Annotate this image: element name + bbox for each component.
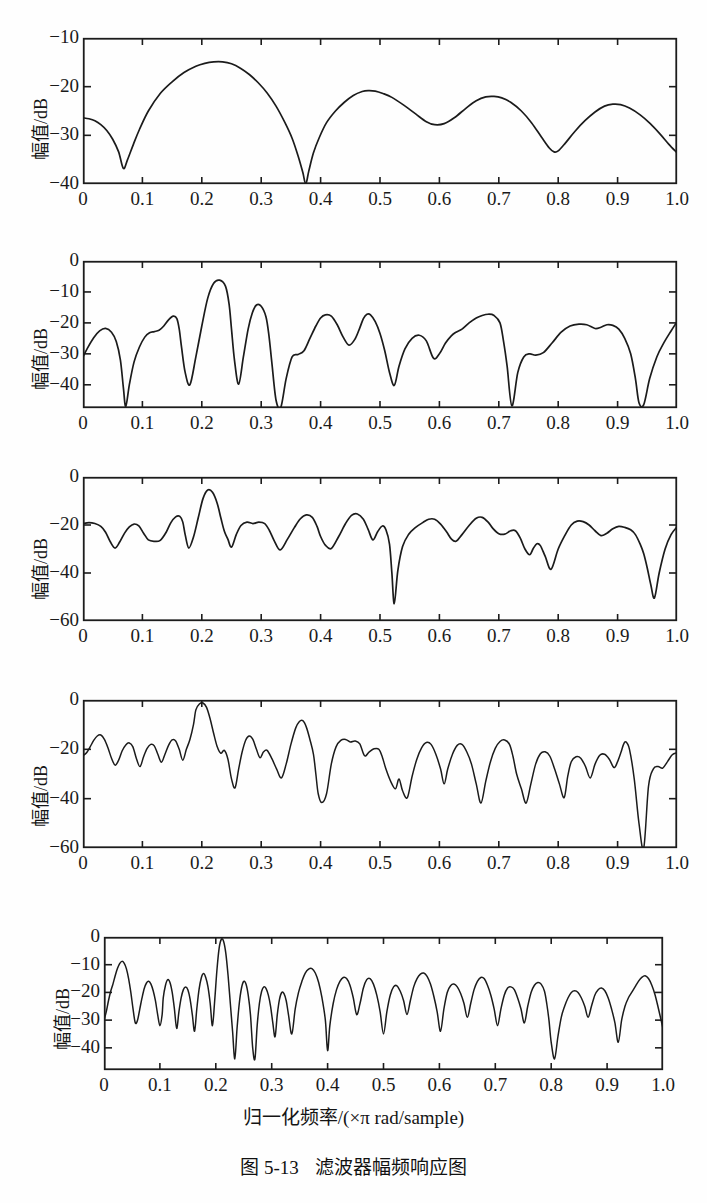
x-tick-label: 0.9 [598,412,638,434]
x-tick-label: 0.7 [479,852,519,874]
x-tick-label: 0.5 [364,1074,404,1096]
y-axis-label-1: 幅值/dB [26,98,52,160]
y-tick-label: −40 [49,787,79,809]
x-axis-label: 归一化频率/(×π rad/sample) [0,1102,707,1129]
x-tick-label: 0.3 [252,1074,292,1096]
y-tick-label: 0 [91,925,101,947]
x-tick-label: 0.5 [360,852,400,874]
x-tick-label: 0.7 [475,1074,515,1096]
x-tick-label: 0.8 [538,852,578,874]
plot-area-5 [104,937,663,1070]
y-tick-label: −30 [49,342,79,364]
x-tick-label: 0.2 [182,852,222,874]
x-tick-label: 0.9 [598,188,638,210]
x-tick-label: 0.6 [419,852,459,874]
x-tick-label: 1.0 [657,412,697,434]
x-tick-label: 0.3 [241,412,281,434]
y-tick-label: −20 [49,311,79,333]
y-tick-label: −10 [70,953,100,975]
y-tick-label: −10 [49,26,79,48]
x-tick-label: 0.6 [419,412,459,434]
x-tick-label: 0.8 [531,1074,571,1096]
subplot-1 [83,38,677,184]
y-tick-label: −20 [49,513,79,535]
y-tick-label: −40 [49,561,79,583]
plot-area-2 [83,261,677,408]
x-tick-label: 0.9 [587,1074,627,1096]
x-tick-label: 0.2 [196,1074,236,1096]
x-tick-label: 0.8 [538,625,578,647]
x-tick-label: 0.3 [241,625,281,647]
y-tick-label: −60 [49,609,79,631]
x-tick-label: 0.7 [479,412,519,434]
x-tick-label: 0.8 [538,188,578,210]
x-tick-label: 0.4 [301,852,341,874]
x-tick-label: 0.1 [122,852,162,874]
x-tick-label: 0.5 [360,625,400,647]
y-tick-label: 0 [70,465,80,487]
subplot-5 [104,937,663,1070]
x-tick-label: 0.4 [308,1074,348,1096]
y-tick-label: −40 [70,1036,100,1058]
y-tick-label: −40 [49,373,79,395]
x-tick-label: 0.9 [598,852,638,874]
plot-area-1 [83,38,677,184]
x-tick-label: 0.3 [241,188,281,210]
y-tick-label: −10 [49,280,79,302]
y-tick-label: −20 [49,737,79,759]
subplot-3 [83,477,677,621]
subplot-4 [83,700,677,848]
x-tick-label: 0.7 [479,188,519,210]
x-tick-label: 0.7 [479,625,519,647]
x-tick-label: 1.0 [657,625,697,647]
y-axis-label-4: 幅值/dB [26,765,52,827]
figure-container: 幅值/dB 00.10.20.30.40.50.60.70.80.91.0 −1… [0,0,707,1203]
x-tick-label: 0.1 [122,625,162,647]
x-tick-label: 0.2 [182,188,222,210]
y-tick-label: 0 [70,688,80,710]
x-tick-label: 0.2 [182,625,222,647]
plot-area-4 [83,700,677,848]
x-tick-label: 0.5 [360,412,400,434]
y-tick-label: −20 [49,75,79,97]
y-axis-label-3: 幅值/dB [26,538,52,600]
figure-caption: 图 5-13滤波器幅频响应图 [0,1152,707,1179]
x-tick-label: 1.0 [643,1074,683,1096]
x-tick-label: 0.6 [419,188,459,210]
y-tick-label: −60 [49,836,79,858]
caption-number: 图 5-13 [240,1157,299,1178]
y-tick-label: −30 [70,1008,100,1030]
x-tick-label: 0.6 [419,1074,459,1096]
y-tick-label: −20 [70,980,100,1002]
x-tick-label: 0.9 [598,625,638,647]
y-tick-label: −40 [49,172,79,194]
x-tick-label: 1.0 [657,188,697,210]
x-tick-label: 0.4 [301,412,341,434]
x-tick-label: 0.5 [360,188,400,210]
x-tick-label: 1.0 [657,852,697,874]
x-tick-label: 0.8 [538,412,578,434]
x-tick-label: 0.1 [122,188,162,210]
x-tick-label: 0.6 [419,625,459,647]
y-tick-label: −30 [49,123,79,145]
x-tick-label: 0.4 [301,625,341,647]
x-tick-label: 0 [84,1074,124,1096]
subplot-2 [83,261,677,408]
x-tick-label: 0.1 [122,412,162,434]
x-tick-label: 0.1 [140,1074,180,1096]
y-axis-label-2: 幅值/dB [26,328,52,390]
plot-area-3 [83,477,677,621]
x-tick-label: 0.3 [241,852,281,874]
x-tick-label: 0 [63,412,103,434]
y-tick-label: 0 [70,249,80,271]
caption-title: 滤波器幅频响应图 [315,1157,467,1178]
x-tick-label: 0.2 [182,412,222,434]
x-tick-label: 0.4 [301,188,341,210]
